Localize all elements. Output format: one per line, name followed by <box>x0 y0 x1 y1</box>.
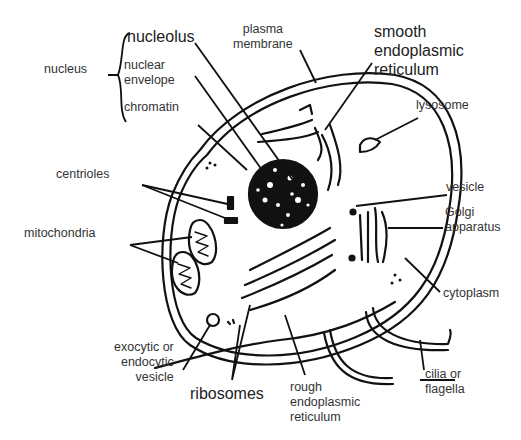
label-nucleolus: nucleolus <box>127 27 195 46</box>
nucleus <box>249 160 317 228</box>
label-golgi-apparatus: Golgi apparatus <box>445 205 501 235</box>
label-line: endoplasmic <box>374 41 464 60</box>
golgi-apparatus <box>360 208 387 262</box>
label-line: plasma <box>233 22 293 37</box>
label-line: exocytic or <box>114 340 174 355</box>
label-line: smooth <box>374 22 464 41</box>
label-cilia-flagella: cilia or flagella <box>425 367 465 397</box>
label-line: reticulum <box>374 60 464 79</box>
label-line: flagella <box>425 382 465 397</box>
ribosome-dots <box>228 320 234 324</box>
exocytic-vesicle <box>207 314 219 326</box>
label-ribosomes: ribosomes <box>190 384 264 403</box>
label-smooth-er: smooth endoplasmic reticulum <box>374 22 464 79</box>
label-mitochondria: mitochondria <box>24 226 96 241</box>
label-line: nuclear <box>124 58 175 73</box>
label-line: endoplasmic <box>290 395 360 410</box>
mitochondrion-2-cristae <box>178 264 191 288</box>
label-nucleus: nucleus <box>44 62 87 77</box>
label-line: membrane <box>233 37 293 52</box>
label-line: rough <box>290 380 360 395</box>
label-centrioles: centrioles <box>56 167 110 182</box>
label-chromatin: chromatin <box>124 100 179 115</box>
label-cytoplasm: cytoplasm <box>443 286 499 301</box>
label-plasma-membrane: plasma membrane <box>233 22 293 52</box>
label-line: endocytic <box>114 355 174 370</box>
label-line: reticulum <box>290 410 360 425</box>
mitochondrion-1-cristae <box>195 232 208 256</box>
label-rough-er: rough endoplasmic reticulum <box>290 380 360 425</box>
label-line: apparatus <box>445 220 501 235</box>
centriole-1 <box>228 197 233 209</box>
label-nuclear-envelope: nuclear envelope <box>124 58 175 88</box>
label-lysosome: lysosome <box>416 98 469 113</box>
rough-er <box>242 228 335 310</box>
label-vesicle: vesicle <box>446 180 484 195</box>
label-exocytic-vesicle: exocytic or endocytic vesicle <box>114 340 174 385</box>
label-line: Golgi <box>445 205 501 220</box>
label-line: vesicle <box>114 370 174 385</box>
lysosome <box>360 138 380 152</box>
label-line: cilia or <box>425 367 465 382</box>
label-line: envelope <box>124 73 175 88</box>
